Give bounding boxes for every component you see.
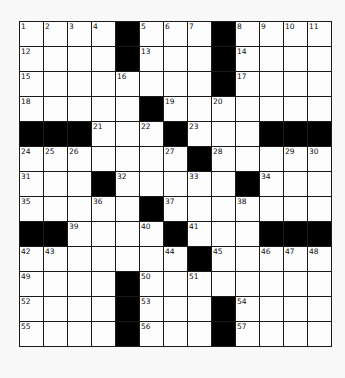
crossword-cell[interactable] (283, 196, 307, 221)
crossword-cell[interactable]: 16 (115, 71, 139, 96)
crossword-cell[interactable] (67, 296, 91, 321)
crossword-cell[interactable]: 20 (211, 96, 235, 121)
crossword-cell[interactable]: 28 (211, 146, 235, 171)
crossword-cell[interactable] (139, 171, 163, 196)
crossword-cell[interactable]: 44 (163, 246, 187, 271)
crossword-cell[interactable] (283, 321, 307, 346)
crossword-cell[interactable]: 34 (259, 171, 283, 196)
crossword-cell[interactable] (211, 271, 235, 296)
crossword-cell[interactable]: 42 (19, 246, 43, 271)
crossword-cell[interactable] (283, 46, 307, 71)
crossword-cell[interactable] (187, 96, 211, 121)
crossword-cell[interactable]: 15 (19, 71, 43, 96)
crossword-cell[interactable]: 53 (139, 296, 163, 321)
crossword-cell[interactable]: 12 (19, 46, 43, 71)
crossword-cell[interactable]: 37 (163, 196, 187, 221)
crossword-cell[interactable] (67, 271, 91, 296)
crossword-cell[interactable]: 48 (307, 246, 331, 271)
crossword-cell[interactable]: 30 (307, 146, 331, 171)
crossword-cell[interactable]: 3 (67, 21, 91, 46)
crossword-cell[interactable] (43, 321, 67, 346)
crossword-cell[interactable] (67, 246, 91, 271)
crossword-cell[interactable] (43, 271, 67, 296)
crossword-cell[interactable] (115, 146, 139, 171)
crossword-cell[interactable]: 55 (19, 321, 43, 346)
crossword-cell[interactable]: 41 (187, 221, 211, 246)
crossword-cell[interactable] (91, 96, 115, 121)
crossword-cell[interactable] (139, 71, 163, 96)
crossword-cell[interactable]: 11 (307, 21, 331, 46)
crossword-cell[interactable] (235, 221, 259, 246)
crossword-cell[interactable]: 4 (91, 21, 115, 46)
crossword-cell[interactable]: 25 (43, 146, 67, 171)
crossword-cell[interactable] (67, 171, 91, 196)
crossword-cell[interactable] (67, 71, 91, 96)
crossword-cell[interactable]: 5 (139, 21, 163, 46)
crossword-cell[interactable]: 19 (163, 96, 187, 121)
crossword-cell[interactable]: 14 (235, 46, 259, 71)
crossword-cell[interactable] (307, 296, 331, 321)
crossword-cell[interactable]: 36 (91, 196, 115, 221)
crossword-cell[interactable]: 21 (91, 121, 115, 146)
crossword-cell[interactable]: 6 (163, 21, 187, 46)
crossword-cell[interactable] (115, 96, 139, 121)
crossword-cell[interactable]: 18 (19, 96, 43, 121)
crossword-cell[interactable] (259, 296, 283, 321)
crossword-cell[interactable]: 26 (67, 146, 91, 171)
crossword-cell[interactable]: 9 (259, 21, 283, 46)
crossword-cell[interactable] (259, 46, 283, 71)
crossword-cell[interactable] (139, 146, 163, 171)
crossword-cell[interactable] (91, 46, 115, 71)
crossword-cell[interactable] (235, 146, 259, 171)
crossword-cell[interactable]: 27 (163, 146, 187, 171)
crossword-cell[interactable] (91, 246, 115, 271)
crossword-cell[interactable] (259, 271, 283, 296)
crossword-cell[interactable]: 22 (139, 121, 163, 146)
crossword-cell[interactable]: 46 (259, 246, 283, 271)
crossword-cell[interactable]: 39 (67, 221, 91, 246)
crossword-cell[interactable] (211, 121, 235, 146)
crossword-cell[interactable] (283, 71, 307, 96)
crossword-cell[interactable]: 32 (115, 171, 139, 196)
crossword-cell[interactable] (91, 296, 115, 321)
crossword-cell[interactable] (187, 321, 211, 346)
crossword-cell[interactable] (43, 46, 67, 71)
crossword-cell[interactable] (163, 321, 187, 346)
crossword-cell[interactable]: 52 (19, 296, 43, 321)
crossword-cell[interactable] (187, 296, 211, 321)
crossword-cell[interactable] (307, 46, 331, 71)
crossword-cell[interactable] (115, 121, 139, 146)
crossword-cell[interactable]: 13 (139, 46, 163, 71)
crossword-cell[interactable] (283, 271, 307, 296)
crossword-cell[interactable]: 33 (187, 171, 211, 196)
crossword-cell[interactable] (211, 221, 235, 246)
crossword-cell[interactable] (283, 96, 307, 121)
crossword-cell[interactable] (67, 321, 91, 346)
crossword-cell[interactable] (187, 46, 211, 71)
crossword-cell[interactable] (307, 271, 331, 296)
crossword-cell[interactable]: 51 (187, 271, 211, 296)
crossword-cell[interactable] (115, 221, 139, 246)
crossword-cell[interactable] (307, 321, 331, 346)
crossword-cell[interactable]: 8 (235, 21, 259, 46)
crossword-cell[interactable] (259, 196, 283, 221)
crossword-cell[interactable]: 54 (235, 296, 259, 321)
crossword-cell[interactable] (115, 196, 139, 221)
crossword-cell[interactable] (43, 71, 67, 96)
crossword-cell[interactable]: 24 (19, 146, 43, 171)
crossword-cell[interactable] (235, 96, 259, 121)
crossword-cell[interactable]: 2 (43, 21, 67, 46)
crossword-cell[interactable] (259, 71, 283, 96)
crossword-cell[interactable]: 23 (187, 121, 211, 146)
crossword-cell[interactable]: 43 (43, 246, 67, 271)
crossword-cell[interactable] (139, 246, 163, 271)
crossword-cell[interactable]: 57 (235, 321, 259, 346)
crossword-cell[interactable] (43, 96, 67, 121)
crossword-cell[interactable] (163, 271, 187, 296)
crossword-cell[interactable] (259, 321, 283, 346)
crossword-cell[interactable]: 56 (139, 321, 163, 346)
crossword-cell[interactable]: 49 (19, 271, 43, 296)
crossword-cell[interactable] (187, 71, 211, 96)
crossword-cell[interactable] (67, 196, 91, 221)
crossword-cell[interactable] (307, 96, 331, 121)
